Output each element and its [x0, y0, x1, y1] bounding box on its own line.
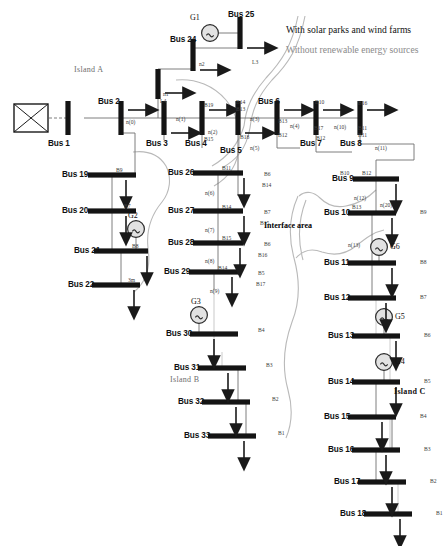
branch-label-62: B2: [430, 479, 437, 485]
bus-bar-bus28: [193, 240, 243, 245]
branch-label-12: n(12): [354, 196, 366, 202]
branch-label-17: n2: [199, 62, 205, 68]
bus-bar-bus26: [193, 170, 243, 175]
generator-circle-g1: [202, 25, 219, 42]
island-b-label: Island B: [170, 376, 199, 384]
branch-label-59: B5: [424, 379, 431, 385]
bus-label-bus2: Bus 2: [98, 98, 120, 106]
bus-label-bus20: Bus 20: [62, 207, 88, 215]
bus-bar-bus9: [353, 176, 399, 181]
bus-label-bus15: Bus 15: [324, 413, 350, 421]
bus-bar-bus31: [198, 365, 246, 370]
branch-label-13: n(13): [348, 243, 360, 249]
branch-label-60: B4: [420, 414, 427, 420]
branch-label-2: n(2): [208, 130, 217, 136]
bus-bar-bus14: [352, 379, 400, 384]
bus-label-bus24: Bus 24: [170, 36, 196, 44]
branch-label-55: B9: [420, 210, 427, 216]
branch-label-7: n(7): [205, 228, 214, 234]
bus-label-bus1: Bus 1: [48, 140, 70, 148]
bus-label-bus6: Bus 6: [258, 98, 280, 106]
branch-label-23: B18: [240, 135, 249, 141]
bus-bar-bus33: [208, 433, 256, 438]
branch-label-48: B4: [258, 328, 265, 334]
generator-circle-g2: [128, 221, 145, 238]
branch-label-6: n(6): [205, 191, 214, 197]
bus-label-bus3: Bus 3: [146, 140, 168, 148]
branch-label-8: n(8): [205, 259, 214, 265]
branch-label-63: B1: [436, 511, 443, 517]
bus-label-bus33: Bus 33: [184, 432, 210, 440]
bus-label-bus25: Bus 25: [228, 11, 254, 19]
bus-label-bus31: Bus 31: [174, 364, 200, 372]
branch-label-32: B9: [116, 168, 123, 174]
interface-area-label: Interface area: [264, 222, 312, 230]
branch-label-33: B7: [124, 204, 131, 210]
bus-bars-group: [65, 17, 412, 517]
branch-label-61: B3: [424, 447, 431, 453]
generator-label-g1: G1: [190, 14, 200, 22]
legend-without-renewables: Without renewable energy sources: [286, 44, 418, 55]
bus-label-bus19: Bus 19: [62, 171, 88, 179]
branch-label-53: B12: [362, 171, 371, 177]
generator-label-g2: G2: [128, 212, 138, 220]
branch-label-14: n(20): [380, 203, 392, 209]
branch-label-54: B13: [352, 205, 361, 211]
generator-circle-g4: [376, 354, 393, 371]
branch-label-15: L4: [160, 99, 166, 105]
bus-bar-bus16: [352, 447, 400, 452]
bus-label-bus11: Bus 11: [324, 259, 350, 267]
branch-label-40: B7: [264, 210, 271, 216]
branch-label-9: n(9): [210, 289, 219, 295]
bus-bar-bus10: [348, 210, 396, 215]
branch-label-19: B19: [204, 103, 213, 109]
generators-group: [128, 25, 393, 371]
branch-label-27: B10: [315, 100, 324, 106]
bus-label-bus17: Bus 17: [334, 478, 360, 486]
bus-bar-bus23: [155, 69, 160, 99]
bus-label-bus28: Bus 28: [168, 239, 194, 247]
bus-bar-bus3: [161, 101, 166, 135]
branch-label-34: B8: [132, 244, 139, 250]
branch-label-1: n(1): [176, 117, 185, 123]
branch-label-39: B14: [222, 205, 231, 211]
generator-circle-g3: [191, 307, 208, 324]
bus-bar-bus13: [352, 333, 400, 338]
bus-label-bus5: Bus 5: [220, 147, 242, 155]
branch-label-36: B11: [222, 166, 231, 172]
bus-label-bus12: Bus 12: [324, 294, 350, 302]
branch-label-43: B6: [264, 242, 271, 248]
island-c-label: Island C: [394, 388, 426, 396]
generator-circle-g6: [371, 239, 388, 256]
branch-label-37: B6: [264, 172, 271, 178]
branch-label-10: n(10): [334, 125, 346, 131]
branch-label-30: B11: [358, 126, 367, 132]
bus-bar-bus29: [189, 269, 239, 274]
branch-label-58: B6: [424, 333, 431, 339]
branch-label-16: L3: [252, 60, 258, 66]
branch-label-45: B14: [218, 266, 227, 272]
branch-label-29: B16: [358, 101, 367, 107]
bus-bar-bus11: [348, 260, 396, 265]
legend-with-renewables: With solar parks and wind farms: [286, 24, 411, 35]
branch-label-5: n(5): [250, 146, 259, 152]
branch-label-44: B16: [258, 253, 267, 259]
branch-label-22: B13: [236, 107, 245, 113]
branch-label-42: B15: [222, 236, 231, 242]
generator-label-g3: G3: [191, 298, 201, 306]
branch-label-56: B8: [420, 260, 427, 266]
bus-label-bus13: Bus 13: [328, 332, 354, 340]
bus-label-bus26: Bus 26: [168, 169, 194, 177]
bus-label-bus27: Bus 27: [168, 207, 194, 215]
bus-bar-bus19: [88, 172, 136, 177]
bus-label-bus14: Bus 14: [328, 378, 354, 386]
branch-label-49: B3: [266, 363, 273, 369]
branch-label-47: B17: [256, 282, 265, 288]
branch-label-26: B12: [316, 136, 325, 142]
bus-label-bus18: Bus 18: [340, 510, 366, 518]
bus-bar-bus32: [202, 399, 250, 404]
bus-label-bus8: Bus 8: [340, 140, 362, 148]
branch-label-20: B15: [204, 137, 213, 143]
generator-circle-g5: [376, 309, 393, 326]
branch-label-35: 3m: [128, 278, 135, 284]
